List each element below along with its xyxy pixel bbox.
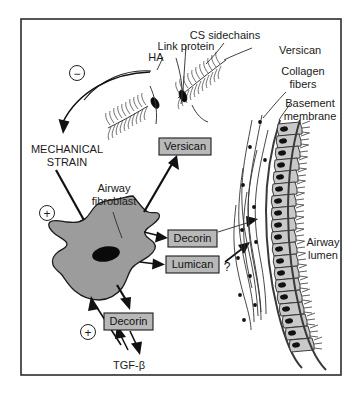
link-protein-label: Link protein <box>158 40 215 52</box>
decorin-lower-arrow-head <box>120 297 131 310</box>
epithelial-cell <box>277 289 310 304</box>
versican-box[interactable]: Versican <box>159 138 211 155</box>
ha-arc <box>84 71 151 100</box>
airway-lumen-label-1: Airway <box>306 236 340 248</box>
epithelial-cell <box>275 277 308 292</box>
collagen-dot <box>258 120 262 124</box>
decorin-box-upper-label: Decorin <box>174 232 212 244</box>
mechanical-strain-label-1: MECHANICAL <box>31 143 103 155</box>
versican-arrow-shaft <box>144 164 172 212</box>
plus-sign-glyph-strain: + <box>43 207 50 221</box>
decorin-box-lower-label: Decorin <box>110 315 148 327</box>
lumican-box[interactable]: Lumican <box>166 256 219 273</box>
airway-fibroblast <box>49 196 160 300</box>
airway-fibroblast-label-1: Airway <box>97 182 131 194</box>
epithelial-cell <box>276 133 309 148</box>
tgf-beta-label: TGF-β <box>113 359 145 371</box>
collagen-dot <box>248 274 252 278</box>
plus-sign-glyph-tgfb: + <box>84 326 91 340</box>
plus-sign-strain-fibroblast: + <box>40 206 55 221</box>
fibroblast-to-decorin-lower-arrow <box>117 285 131 310</box>
plus-sign-tgfb-fibroblast: + <box>81 325 96 340</box>
epithelial-cell <box>289 337 322 352</box>
basement-membrane-label-2: membrane <box>284 110 337 122</box>
basement-membrane-label-1: Basement <box>285 97 335 109</box>
decorin-box-upper[interactable]: Decorin <box>168 230 217 247</box>
minus-sign-strain: − <box>70 66 85 81</box>
proteoglycan-aggregate-left <box>106 86 161 140</box>
aggregate-tail-right <box>192 105 208 122</box>
collagen-dot <box>236 256 240 260</box>
lumican-arrow-head <box>152 259 165 270</box>
lumican-box-label: Lumican <box>172 258 214 270</box>
versican-box-label: Versican <box>164 140 206 152</box>
collagen-fibers-label-2: fibers <box>290 78 317 90</box>
minus-sign-glyph: − <box>73 67 80 81</box>
collagen-dot <box>238 293 242 297</box>
collagen-dot <box>242 318 246 322</box>
airway-fibroblast-label-2: fibroblast <box>92 195 137 207</box>
airway-lumen-label-2: lumen <box>308 249 338 261</box>
epithelial-cell <box>274 265 307 280</box>
collagen-dot <box>254 240 258 244</box>
epithelial-cell <box>285 325 318 340</box>
cs-sidechains-left <box>106 93 147 140</box>
epithelial-cell <box>277 121 310 136</box>
versican-callout-label: Versican <box>279 44 321 56</box>
question-mark-label: ? <box>224 260 231 274</box>
negative-feedback-arrow <box>59 72 151 134</box>
figure-root: − + + <box>0 0 362 395</box>
tgfb-down-head <box>131 342 142 356</box>
collagen-dot <box>253 303 257 307</box>
fibroblast-to-versican-arrow <box>144 155 179 212</box>
epithelial-cell <box>279 301 312 316</box>
collagen-dot <box>240 228 244 232</box>
collagen-dot <box>252 205 256 209</box>
negative-feedback-arrowhead <box>59 119 70 134</box>
decorin-arrow-head <box>155 232 168 243</box>
mechanical-strain-label-2: STRAIN <box>47 156 87 168</box>
decorin-to-collagen-arrow <box>218 216 258 232</box>
collagen-dot <box>248 145 252 149</box>
collagen-dot <box>263 158 267 162</box>
diagram-canvas: − + + <box>0 0 362 395</box>
strain-arrow-shaft <box>56 170 85 222</box>
collagen-dot <box>241 183 245 187</box>
versican-callout-leader <box>224 48 252 60</box>
ha-label: HA <box>148 51 164 63</box>
epithelial-cell <box>282 313 315 328</box>
collagen-fibers-label-1: Collagen <box>281 65 324 77</box>
decorin-box-lower[interactable]: Decorin <box>104 313 153 330</box>
